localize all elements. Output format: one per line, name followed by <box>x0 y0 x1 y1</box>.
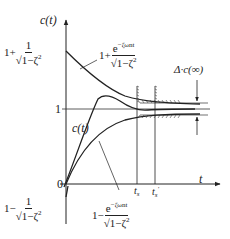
response-label: c(t) <box>72 122 89 134</box>
tolerance-label: Δ·c(∞) <box>174 64 203 75</box>
origin-label: 0 <box>57 178 63 190</box>
y-axis-label: c(t) <box>40 14 57 26</box>
upper-start-label: 1+ 1√1−ζ2 <box>4 40 42 66</box>
x-axis-label: t <box>199 173 202 185</box>
settling-time-label: ts <box>134 186 140 198</box>
lower-start-label: 1− 1√1−ζ2 <box>4 196 42 222</box>
settling-time-prime-label: ts' <box>152 186 159 199</box>
steady-value-label: 1 <box>55 103 61 115</box>
upper-envelope-label: 1+ e−ζωnt√1−ζ2 <box>99 42 137 68</box>
lower-envelope-label: 1− e−ζωnt√1−ζ2 <box>92 202 130 228</box>
step-response-diagram: c(t) 1+ 1√1−ζ2 1+ e−ζωnt√1−ζ2 1 c(t) 0 t… <box>0 0 230 239</box>
upper-envelope-leader <box>80 60 97 69</box>
lower-envelope-leader <box>99 141 119 190</box>
